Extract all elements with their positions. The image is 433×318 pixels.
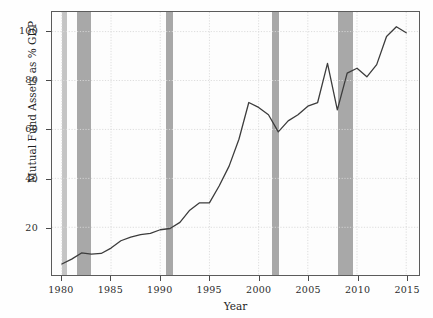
y-tick-label: 60: [4, 123, 38, 134]
y-tick-mark: [46, 31, 51, 32]
x-tick-label: 2000: [239, 284, 279, 295]
y-tick-label: 100: [4, 25, 38, 36]
x-tick-mark: [308, 276, 309, 281]
x-axis-label: Year: [51, 300, 420, 312]
chart-figure: Mutual Fund Assets as % GDP 20406080100 …: [0, 0, 433, 318]
y-tick-label: 80: [4, 74, 38, 85]
x-tick-label: 2005: [288, 284, 328, 295]
x-tick-mark: [407, 276, 408, 281]
x-tick-mark: [358, 276, 359, 281]
x-tick-label: 1985: [90, 284, 130, 295]
data-line: [52, 12, 419, 275]
y-tick-mark: [46, 129, 51, 130]
x-tick-label: 1995: [189, 284, 229, 295]
y-tick-label: 20: [4, 222, 38, 233]
x-tick-mark: [61, 276, 62, 281]
x-tick-label: 2015: [387, 284, 427, 295]
x-tick-mark: [110, 276, 111, 281]
y-tick-mark: [46, 179, 51, 180]
x-tick-label: 1980: [41, 284, 81, 295]
y-axis-label: Mutual Fund Assets as % GDP: [26, 17, 38, 187]
x-tick-mark: [160, 276, 161, 281]
x-tick-label: 1990: [140, 284, 180, 295]
plot-area: [51, 11, 420, 276]
y-tick-mark: [46, 80, 51, 81]
x-tick-label: 2010: [338, 284, 378, 295]
x-tick-mark: [259, 276, 260, 281]
y-tick-mark: [46, 228, 51, 229]
y-tick-label: 40: [4, 173, 38, 184]
x-tick-mark: [209, 276, 210, 281]
